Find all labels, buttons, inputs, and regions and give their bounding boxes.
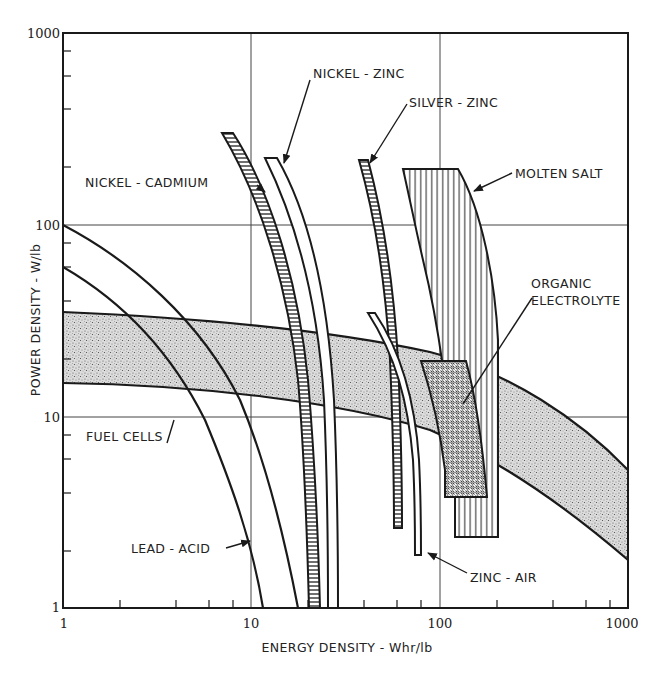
label-silver-zinc: SILVER - ZINC [409, 95, 498, 110]
x-tick-100: 100 [428, 616, 453, 631]
label-nickel-cadmium: NICKEL - CADMIUM [85, 175, 208, 190]
x-tick-1000: 1000 [605, 616, 638, 631]
label-fuel-cells: FUEL CELLS [86, 429, 163, 444]
y-axis-title: POWER DENSITY - W/lb [28, 244, 43, 397]
label-organic-line1: ORGANIC [531, 276, 592, 291]
label-zinc-air: ZINC - AIR [470, 570, 537, 585]
x-tick-labels: 1 10 100 1000 [60, 616, 639, 631]
x-tick-10: 10 [243, 616, 260, 631]
label-molten-salt: MOLTEN SALT [515, 166, 603, 181]
y-tick-10: 10 [43, 410, 60, 425]
y-axis-minor-ticks [63, 51, 71, 551]
label-lead-acid: LEAD - ACID [131, 541, 210, 556]
y-tick-100: 100 [35, 218, 60, 233]
x-axis-title: ENERGY DENSITY - Whr/lb [262, 640, 433, 655]
label-organic-line2: ELECTROLYTE [531, 293, 620, 308]
power-vs-energy-density-chart: 1000 100 10 1 1 10 100 1000 ENERGY DENSI… [0, 0, 657, 675]
label-nickel-zinc: NICKEL - ZINC [313, 66, 405, 81]
y-tick-1: 1 [52, 600, 60, 615]
x-axis-minor-ticks [120, 600, 610, 608]
x-tick-1: 1 [60, 616, 68, 631]
y-tick-1000: 1000 [27, 26, 60, 41]
